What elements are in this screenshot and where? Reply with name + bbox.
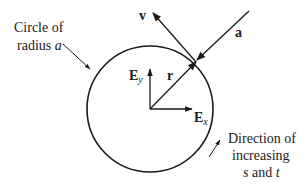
circle-label-line2: radius a: [17, 38, 62, 53]
vector-v-label: v: [139, 8, 146, 23]
circle-label-line1: Circle of: [14, 20, 64, 35]
vector-r-label: r: [167, 68, 173, 83]
basis-ex-label: Ex: [194, 110, 208, 127]
velocity-vector-v-arrow: [153, 13, 196, 62]
circle-label-pointer-arrow: [63, 44, 90, 69]
circle-label-radius-text: radius: [17, 38, 55, 53]
vector-a-label: a: [235, 25, 242, 40]
circle-label-radius-var: a: [55, 38, 62, 53]
direction-label-line1: Direction of: [228, 131, 296, 146]
basis-ey-label: Ey: [129, 68, 143, 85]
direction-of-increasing-arrow: [209, 140, 220, 157]
circle-motion-diagram: Circle of radius a v a r Ey Ex Direction…: [0, 0, 306, 190]
direction-label-line3: s and t: [243, 165, 281, 180]
direction-label-line2: increasing: [232, 148, 290, 163]
